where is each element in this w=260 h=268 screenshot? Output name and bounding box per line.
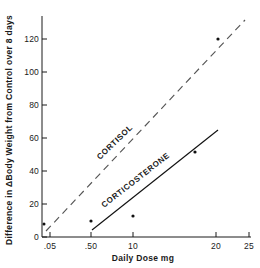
y-tick-label-100: 100	[24, 67, 39, 77]
chart-figure: 0 20 40 60 80 100 120 .05 .50 10 20 25 D…	[0, 0, 260, 268]
data-point-cortisol-2	[216, 37, 219, 40]
x-tick-marks	[50, 232, 249, 237]
y-tick-label-0: 0	[34, 232, 39, 242]
x-axis-title: Daily Dose mg	[112, 253, 174, 263]
y-axis-title: Difference in ΔBody Weight from Control …	[4, 15, 14, 245]
y-tick-label-40: 40	[29, 166, 39, 176]
data-point-corticosterone-3	[193, 150, 196, 153]
y-tick-marks	[42, 39, 47, 237]
x-tick-label-050: .50	[85, 241, 97, 251]
y-tick-label-20: 20	[29, 199, 39, 209]
x-tick-label-25: 25	[244, 241, 254, 251]
series-label-corticosterone: CORTICOSTERONE	[100, 151, 172, 210]
x-tick-label-005: .05	[44, 241, 56, 251]
x-tick-label-20: 20	[211, 241, 221, 251]
series-label-cortisol: CORTISOL	[95, 123, 134, 162]
y-tick-label-60: 60	[29, 133, 39, 143]
x-tick-label-10: 10	[128, 241, 138, 251]
y-tick-label-80: 80	[29, 100, 39, 110]
chart-canvas: 0 20 40 60 80 100 120 .05 .50 10 20 25 D…	[0, 0, 260, 268]
data-point-cortisol-1	[43, 223, 46, 226]
data-point-corticosterone-1	[89, 219, 92, 222]
y-tick-label-120: 120	[24, 34, 39, 44]
series-line-cortisol	[46, 20, 245, 231]
data-point-corticosterone-2	[131, 214, 134, 217]
